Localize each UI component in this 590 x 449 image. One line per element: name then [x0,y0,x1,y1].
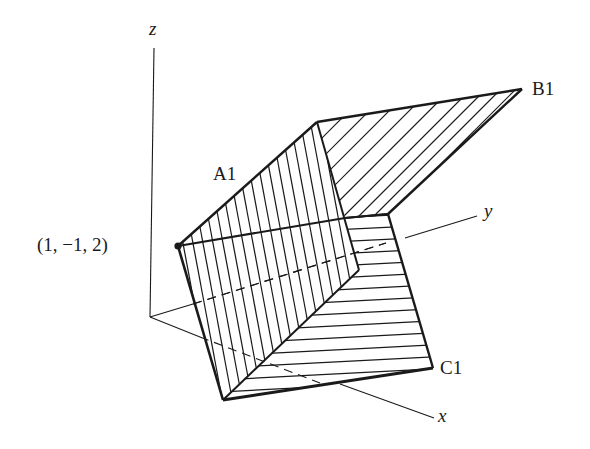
plane-a1-edge-left [178,246,223,400]
plane-b1-hatch [300,60,560,230]
plane-outlines [178,89,522,400]
plane-c1-label: C1 [440,357,462,379]
planes-diagram [0,0,590,449]
y-axis-label: y [484,200,492,222]
z-axis-label: z [149,18,156,40]
x-axis-label: x [438,405,446,427]
x-axis-rear [340,384,434,418]
plane-b1-label: B1 [532,78,554,100]
plane-c1-edge-right [388,214,433,368]
y-axis-front [150,304,193,317]
plane-c1-edge-bottom [223,368,433,400]
point-marker [174,242,181,249]
diagram-canvas: z y x (1, −1, 2) A1 B1 C1 [0,0,590,449]
plane-a1-edge-top [178,122,317,246]
y-axis-rear [405,216,477,238]
point-label: (1, −1, 2) [37,234,108,256]
plane-a1-label: A1 [213,163,236,185]
y-axis-dashed-overlay [193,243,386,304]
x-axis-front [150,317,200,337]
z-axis [150,48,154,317]
plane-a1-hatch [140,120,376,420]
intersection-line-ac [223,270,359,400]
